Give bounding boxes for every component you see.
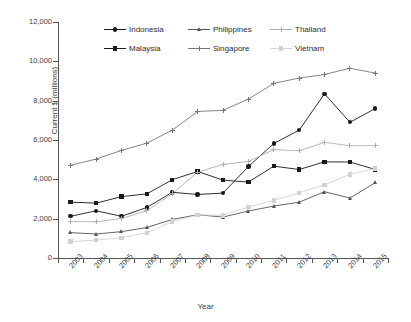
data-point-indonesia-2013 — [322, 92, 326, 96]
x-tick-mark — [185, 258, 186, 263]
data-point-singapore-2015 — [373, 71, 378, 76]
data-point-thailand-2005 — [119, 216, 124, 221]
legend-marker-square-icon — [104, 44, 126, 53]
data-point-thailand-2015 — [373, 143, 378, 148]
data-point-malaysia-2014 — [348, 160, 352, 164]
data-point-indonesia-2011 — [272, 141, 276, 145]
data-point-thailand-2013 — [322, 140, 327, 145]
data-point-malaysia-2004 — [94, 201, 98, 205]
x-tick-mark — [109, 258, 110, 263]
data-point-vietnam-2014 — [348, 172, 352, 176]
data-point-thailand-2012 — [297, 148, 302, 153]
legend-label: Singapore — [213, 44, 249, 53]
legend-marker-square-icon — [270, 44, 292, 53]
data-point-vietnam-2009 — [221, 213, 225, 217]
data-point-thailand-2006 — [144, 208, 149, 213]
x-tick-mark — [134, 258, 135, 263]
line-chart: Current $ (millions) 02,0004,0006,0008,0… — [0, 0, 411, 322]
data-point-singapore-2011 — [271, 81, 276, 86]
data-point-malaysia-2006 — [145, 192, 149, 196]
x-tick-mark — [58, 258, 59, 263]
data-point-philippines-2011 — [272, 204, 276, 208]
data-point-singapore-2003 — [68, 163, 73, 168]
data-point-malaysia-2013 — [322, 160, 326, 164]
x-axis-title: Year — [0, 302, 411, 311]
x-tick-mark — [312, 258, 313, 263]
y-tick-label: 12,000 — [8, 18, 52, 26]
data-point-thailand-2007 — [170, 191, 175, 196]
legend-label: Indonesia — [129, 25, 164, 34]
y-tick-label: 6,000 — [8, 136, 52, 144]
data-point-vietnam-2004 — [94, 238, 98, 242]
data-point-vietnam-2008 — [195, 213, 199, 217]
data-point-singapore-2014 — [347, 66, 352, 71]
data-point-malaysia-2012 — [297, 167, 301, 171]
data-point-philippines-2014 — [348, 196, 352, 200]
data-point-vietnam-2011 — [272, 198, 276, 202]
data-point-philippines-2004 — [94, 232, 98, 236]
data-point-vietnam-2012 — [297, 191, 301, 195]
legend-marker-plus-icon — [270, 25, 292, 34]
data-point-malaysia-2003 — [68, 200, 72, 204]
data-point-vietnam-2003 — [68, 239, 72, 243]
data-point-thailand-2008 — [195, 170, 200, 175]
data-point-malaysia-2009 — [221, 178, 225, 182]
legend-marker-plus-icon — [188, 44, 210, 53]
chart-legend: IndonesiaPhilippinesThailandMalaysiaSing… — [104, 20, 334, 58]
data-point-thailand-2004 — [94, 219, 99, 224]
data-point-philippines-2012 — [297, 200, 301, 204]
data-point-thailand-2009 — [221, 162, 226, 167]
data-point-vietnam-2005 — [119, 236, 123, 240]
data-point-singapore-2012 — [297, 76, 302, 81]
data-point-singapore-2013 — [322, 72, 327, 77]
legend-item-singapore[interactable]: Singapore — [188, 44, 270, 53]
y-tick-label: 4,000 — [8, 175, 52, 183]
legend-label: Thailand — [295, 25, 326, 34]
data-point-philippines-2013 — [322, 190, 326, 194]
data-point-malaysia-2007 — [170, 178, 174, 182]
legend-item-philippines[interactable]: Philippines — [188, 25, 270, 34]
y-tick-label: 0 — [8, 254, 52, 262]
data-point-philippines-2003 — [68, 230, 72, 234]
y-tick-label: 10,000 — [8, 57, 52, 65]
legend-marker-circle-icon — [104, 25, 126, 34]
data-point-singapore-2007 — [170, 128, 175, 133]
data-point-philippines-2010 — [246, 209, 250, 213]
data-point-philippines-2005 — [119, 229, 123, 233]
data-point-singapore-2005 — [119, 148, 124, 153]
data-point-vietnam-2010 — [246, 205, 250, 209]
data-point-indonesia-2008 — [195, 192, 199, 196]
data-point-thailand-2011 — [271, 147, 276, 152]
y-tick-label: 2,000 — [8, 215, 52, 223]
data-point-vietnam-2006 — [145, 231, 149, 235]
legend-item-thailand[interactable]: Thailand — [270, 25, 334, 34]
legend-item-indonesia[interactable]: Indonesia — [104, 25, 188, 34]
data-point-singapore-2006 — [144, 141, 149, 146]
legend-marker-triangle-icon — [188, 25, 210, 34]
data-point-philippines-2006 — [145, 225, 149, 229]
data-point-thailand-2003 — [68, 219, 73, 224]
data-point-vietnam-2013 — [322, 183, 326, 187]
data-point-vietnam-2007 — [170, 219, 174, 223]
legend-label: Vietnam — [295, 44, 324, 53]
data-point-malaysia-2011 — [272, 164, 276, 168]
data-point-thailand-2014 — [347, 143, 352, 148]
y-tick-label: 8,000 — [8, 97, 52, 105]
x-tick-mark — [261, 258, 262, 263]
data-point-malaysia-2005 — [119, 194, 123, 198]
data-point-thailand-2010 — [246, 159, 251, 164]
data-point-malaysia-2010 — [246, 180, 250, 184]
data-point-indonesia-2010 — [246, 164, 250, 168]
legend-item-malaysia[interactable]: Malaysia — [104, 44, 188, 53]
legend-item-vietnam[interactable]: Vietnam — [270, 44, 334, 53]
series-line-singapore — [71, 68, 376, 165]
data-point-vietnam-2015 — [373, 166, 377, 170]
legend-label: Malaysia — [129, 44, 161, 53]
data-point-singapore-2010 — [246, 97, 251, 102]
data-point-singapore-2009 — [221, 108, 226, 113]
data-point-philippines-2015 — [373, 180, 377, 184]
x-tick-mark — [388, 258, 389, 263]
data-point-singapore-2008 — [195, 109, 200, 114]
data-point-singapore-2004 — [94, 157, 99, 162]
legend-label: Philippines — [213, 25, 252, 34]
